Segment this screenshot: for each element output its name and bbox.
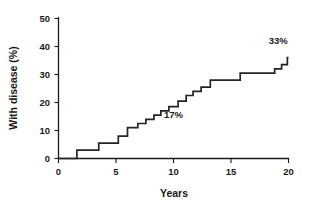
x-tick-label-0: 0 [56, 166, 61, 177]
step-chart-svg: 0 10 20 30 40 50 0 5 10 15 20 Years With… [0, 0, 313, 210]
y-axis-tick-labels: 0 10 20 30 40 50 [39, 13, 50, 164]
chart-figure: 0 10 20 30 40 50 0 5 10 15 20 Years With… [0, 0, 313, 210]
y-tick-label-10: 10 [39, 125, 50, 136]
y-tick-label-40: 40 [39, 41, 50, 52]
x-axis-tick-labels: 0 5 10 15 20 [56, 166, 294, 177]
y-tick-label-50: 50 [39, 13, 50, 24]
x-axis-title: Years [160, 187, 188, 199]
y-tick-label-0: 0 [45, 153, 50, 164]
annotation-17-percent: 17% [164, 109, 184, 120]
x-tick-label-15: 15 [226, 166, 237, 177]
x-tick-label-20: 20 [283, 166, 294, 177]
annotation-33-percent: 33% [269, 35, 289, 46]
x-tick-label-5: 5 [113, 166, 119, 177]
y-tick-label-30: 30 [39, 69, 50, 80]
plot-axes [59, 18, 289, 159]
x-axis-ticks [59, 159, 289, 164]
y-axis-title: With disease (%) [7, 46, 19, 129]
x-tick-label-10: 10 [168, 166, 179, 177]
y-tick-label-20: 20 [39, 97, 50, 108]
